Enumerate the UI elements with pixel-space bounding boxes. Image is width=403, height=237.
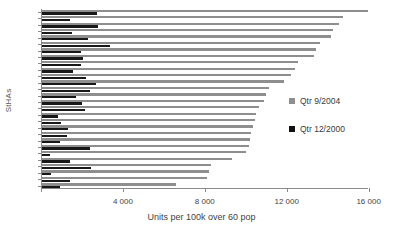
bar-group	[42, 55, 385, 60]
bar-qtr-9-2004	[42, 183, 176, 185]
bar-qtr-12-2000	[42, 167, 91, 169]
bar-group	[42, 183, 385, 188]
bar-qtr-12-2000	[42, 25, 98, 27]
x-tick-8000	[205, 188, 206, 192]
bar-qtr-12-2000	[42, 83, 96, 85]
y-tick	[38, 57, 41, 58]
x-tick-12000	[287, 188, 288, 192]
bar-group	[42, 170, 385, 175]
y-tick	[38, 128, 41, 129]
y-axis-title-text: StHAs	[5, 88, 14, 112]
y-tick	[38, 108, 41, 109]
y-tick	[38, 141, 41, 142]
bar-group	[42, 42, 385, 47]
bar-group	[42, 87, 385, 92]
y-tick	[38, 166, 41, 167]
y-tick	[38, 44, 41, 45]
x-tick-4000	[123, 188, 124, 192]
y-tick	[38, 160, 41, 161]
legend-item-qtr-9-2004: Qtr 9/2004	[289, 96, 345, 106]
y-tick	[38, 96, 41, 97]
y-tick	[38, 76, 41, 77]
bar-qtr-9-2004	[42, 48, 316, 50]
bar-group	[42, 48, 385, 53]
bar-qtr-12-2000	[42, 128, 68, 130]
bar-qtr-9-2004	[42, 125, 253, 127]
bar-qtr-12-2000	[42, 160, 70, 162]
bar-qtr-12-2000	[42, 122, 61, 124]
bar-qtr-9-2004	[42, 29, 333, 31]
legend-swatch-icon-2004	[289, 98, 295, 104]
bar-group	[42, 10, 385, 15]
bar-group	[42, 61, 385, 66]
bar-qtr-9-2004	[42, 113, 256, 115]
y-tick	[38, 83, 41, 84]
bar-qtr-12-2000	[42, 135, 67, 137]
y-tick	[38, 102, 41, 103]
x-axis-title: Units per 100k over 60 pop	[0, 212, 403, 222]
x-tick-label-4000: 4 000	[113, 197, 133, 206]
bar-group	[42, 23, 385, 28]
bar-qtr-9-2004	[42, 119, 255, 121]
y-tick	[38, 89, 41, 90]
y-tick	[38, 134, 41, 135]
y-tick	[38, 38, 41, 39]
bar-group	[42, 177, 385, 182]
bar-qtr-12-2000	[42, 45, 110, 47]
x-tick-label-16000: 16 000	[356, 197, 380, 206]
bar-qtr-9-2004	[42, 170, 209, 172]
x-tick-label-12000: 12 000	[274, 197, 298, 206]
bar-qtr-12-2000	[42, 186, 60, 188]
legend-label-2004: Qtr 9/2004	[300, 96, 340, 106]
bar-qtr-12-2000	[42, 147, 90, 149]
bar-qtr-12-2000	[42, 32, 72, 34]
y-tick	[38, 186, 41, 187]
bar-qtr-9-2004	[42, 132, 251, 134]
y-axis-title: StHAs	[2, 60, 16, 140]
legend-item-qtr-12-2000: Qtr 12/2000	[289, 124, 345, 134]
y-tick	[38, 121, 41, 122]
bar-qtr-12-2000	[42, 102, 82, 104]
y-tick	[38, 31, 41, 32]
chart-legend: Qtr 9/2004 Qtr 12/2000	[289, 96, 345, 152]
y-tick	[38, 173, 41, 174]
bar-qtr-12-2000	[42, 109, 85, 111]
bar-qtr-12-2000	[42, 96, 76, 98]
bar-chart: StHAs 4 0008 00012 00016 000 Qtr 9/2004 …	[0, 0, 403, 237]
y-tick	[38, 179, 41, 180]
bar-qtr-9-2004	[42, 158, 232, 160]
y-tick	[38, 12, 41, 13]
bar-qtr-9-2004	[42, 68, 295, 70]
y-tick	[38, 70, 41, 71]
legend-swatch-icon-2000	[289, 126, 295, 132]
y-tick	[38, 115, 41, 116]
bar-qtr-12-2000	[42, 51, 81, 53]
bar-qtr-12-2000	[42, 90, 90, 92]
x-tick-0	[41, 188, 42, 192]
bar-qtr-12-2000	[42, 154, 50, 156]
bar-qtr-12-2000	[42, 70, 73, 72]
y-tick	[38, 153, 41, 154]
bar-qtr-12-2000	[42, 180, 70, 182]
bar-group	[42, 164, 385, 169]
bar-qtr-12-2000	[42, 38, 88, 40]
bar-qtr-9-2004	[42, 138, 250, 140]
y-tick	[38, 51, 41, 52]
bar-group	[42, 80, 385, 85]
bar-group	[42, 68, 385, 73]
bar-qtr-12-2000	[42, 173, 51, 175]
x-tick-label-8000: 8 000	[195, 197, 215, 206]
y-tick	[38, 25, 41, 26]
bar-qtr-9-2004	[42, 151, 246, 153]
x-tick-16000	[369, 188, 370, 192]
bar-qtr-12-2000	[42, 141, 60, 143]
bar-group	[42, 35, 385, 40]
bar-qtr-12-2000	[42, 19, 70, 21]
bar-qtr-12-2000	[42, 64, 81, 66]
bar-qtr-9-2004	[42, 16, 343, 18]
bar-qtr-12-2000	[42, 57, 83, 59]
bar-group	[42, 158, 385, 163]
bar-qtr-12-2000	[42, 12, 97, 14]
bar-qtr-12-2000	[42, 115, 58, 117]
y-tick	[38, 18, 41, 19]
